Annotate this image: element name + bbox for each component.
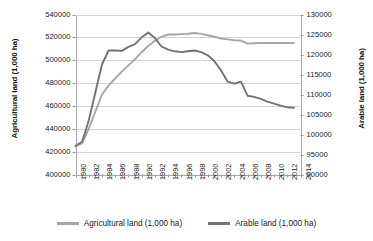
x-axis-tick-label: 2004: [238, 163, 247, 179]
x-axis-tick-label: 1996: [185, 163, 194, 179]
x-axis-tick-label: 2002: [224, 163, 233, 179]
y-axis-left-tick-label: 520000: [27, 32, 71, 41]
y-axis-right-tick-label: 90000: [307, 170, 351, 179]
x-axis-tick-label: 2008: [264, 163, 273, 179]
tick-marks: [73, 16, 304, 178]
x-axis-tick-label: 1994: [171, 163, 180, 179]
x-axis-tick-label: 1980: [79, 163, 88, 179]
y-axis-right-tick-label: 105000: [307, 110, 351, 119]
legend-item[interactable]: Arable land (1,000 ha): [208, 219, 316, 228]
x-axis-tick-label: 1986: [118, 163, 127, 179]
y-axis-right-tick-label: 120000: [307, 50, 351, 59]
y-axis-left-tick-label: 480000: [27, 78, 71, 87]
legend-swatch-icon: [57, 222, 79, 224]
y-axis-right-tick-label: 100000: [307, 130, 351, 139]
legend-swatch-icon: [208, 222, 230, 224]
y-axis-right-tick-label: 125000: [307, 30, 351, 39]
x-axis-tick-label: 2006: [251, 163, 260, 179]
x-axis-tick-label: 1990: [145, 163, 154, 179]
x-axis-tick-label: 1998: [198, 163, 207, 179]
y-axis-right-tick-label: 110000: [307, 90, 351, 99]
x-axis-tick-label: 1992: [158, 163, 167, 179]
x-axis-tick-label: 2000: [211, 163, 220, 179]
legend-label: Arable land (1,000 ha): [235, 219, 316, 228]
y-axis-left-tick-label: 420000: [27, 147, 71, 156]
y-axis-right-tick-label: 130000: [307, 10, 351, 19]
y-axis-right-tick-label: 115000: [307, 70, 351, 79]
series-line-arable-land: [76, 33, 294, 146]
y-axis-right-tick-label: 95000: [307, 150, 351, 159]
x-axis-tick-label: 1984: [105, 163, 114, 179]
x-axis-tick-label: 2010: [277, 163, 286, 179]
y-axis-left-tick-label: 540000: [27, 10, 71, 19]
y-axis-left-tick-label: 460000: [27, 101, 71, 110]
x-axis-tick-label: 1982: [92, 163, 101, 179]
y-axis-left-tick-label: 400000: [27, 170, 71, 179]
y-axis-left-tick-label: 440000: [27, 124, 71, 133]
legend-label: Agricultural land (1,000 ha): [84, 219, 182, 228]
x-axis-tick-label: 2014: [304, 163, 313, 179]
legend-item[interactable]: Agricultural land (1,000 ha): [57, 219, 182, 228]
y-axis-left-tick-label: 500000: [27, 55, 71, 64]
chart-container: Agricultural land (1,000 ha) Arable land…: [0, 0, 373, 241]
gridlines: [76, 16, 301, 176]
x-axis-tick-label: 2012: [290, 163, 299, 179]
x-axis-tick-label: 1988: [132, 163, 141, 179]
axis-lines: [77, 16, 302, 176]
chart-legend: Agricultural land (1,000 ha)Arable land …: [0, 219, 373, 228]
